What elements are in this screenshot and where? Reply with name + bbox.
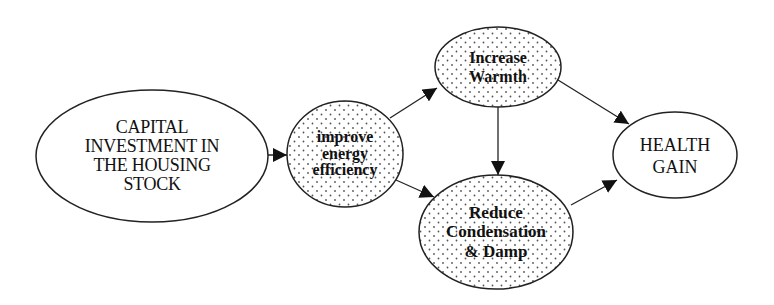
node-capital-line-1: CAPITAL	[116, 118, 188, 137]
node-improve-line-2: energy	[322, 146, 368, 163]
node-warmth: Increase Warmth	[440, 40, 556, 94]
node-capital-line-3: THE HOUSING	[93, 156, 210, 175]
edge-warmth-health	[558, 80, 629, 124]
node-capital-line-4: STOCK	[123, 175, 180, 194]
edge-improve-warmth	[390, 88, 437, 118]
node-health-line-2: GAIN	[653, 156, 698, 179]
node-improve-line-3: efficiency	[313, 162, 378, 179]
node-capital-line-2: INVESTMENT IN	[85, 137, 219, 156]
node-damp-line-1: Reduce	[469, 203, 523, 223]
diagram-canvas: CAPITAL INVESTMENT IN THE HOUSING STOCK …	[0, 0, 774, 305]
node-improve: improve energy efficiency	[290, 117, 400, 191]
node-improve-line-1: improve	[317, 129, 374, 146]
node-warmth-line-2: Warmth	[469, 67, 527, 86]
edge-damp-health	[571, 180, 617, 205]
node-damp-line-2: Condensation	[446, 222, 546, 242]
node-warmth-line-1: Increase	[469, 48, 526, 67]
node-damp: Reduce Condensation & Damp	[426, 194, 566, 270]
node-health-line-1: HEALTH	[640, 134, 710, 157]
node-health: HEALTH GAIN	[617, 128, 733, 184]
node-damp-line-3: & Damp	[465, 242, 528, 262]
node-capital: CAPITAL INVESTMENT IN THE HOUSING STOCK	[52, 104, 252, 208]
